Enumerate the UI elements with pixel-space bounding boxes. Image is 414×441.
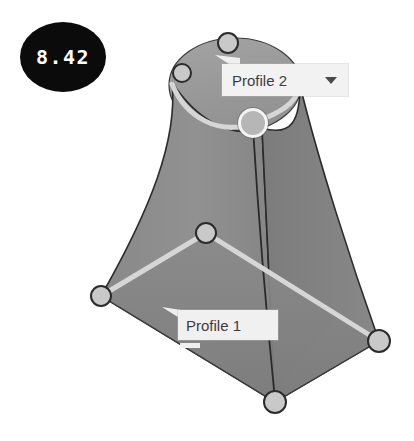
- handle-top-apex[interactable]: [217, 32, 239, 54]
- handle-base-right[interactable]: [367, 329, 391, 353]
- profile-2-label: Profile 2: [232, 73, 287, 88]
- profile-1-callout[interactable]: Profile 1: [178, 310, 278, 340]
- handle-base-left[interactable]: [90, 285, 112, 307]
- handle-base-bottom[interactable]: [263, 390, 287, 414]
- handle-profile1-center[interactable]: [195, 222, 217, 244]
- dimension-badge[interactable]: 8.42: [20, 22, 106, 92]
- handle-top-left[interactable]: [172, 63, 192, 83]
- profile-1-label: Profile 1: [186, 318, 241, 333]
- dimension-value: 8.42: [36, 47, 90, 67]
- profile-2-callout[interactable]: Profile 2: [222, 64, 348, 96]
- cad-viewport[interactable]: Profile 2 Profile 1 8.42: [0, 0, 414, 441]
- handle-profile2-center[interactable]: [238, 108, 268, 138]
- chevron-down-icon[interactable]: [325, 77, 337, 84]
